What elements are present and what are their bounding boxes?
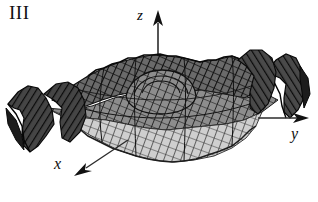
surface-plot-canvas xyxy=(0,0,318,202)
y-axis xyxy=(258,113,309,123)
y-axis-label: y xyxy=(291,126,298,142)
arrow-down-left-icon xyxy=(74,163,92,176)
left-fin-tip xyxy=(6,108,24,150)
z-axis-label: z xyxy=(137,8,143,23)
panel-label: III xyxy=(9,3,29,22)
surface-plot-figure: III z y x xyxy=(0,0,318,202)
surface-mesh xyxy=(6,50,310,162)
x-axis-label: x xyxy=(54,156,61,172)
x-axis xyxy=(74,140,128,176)
